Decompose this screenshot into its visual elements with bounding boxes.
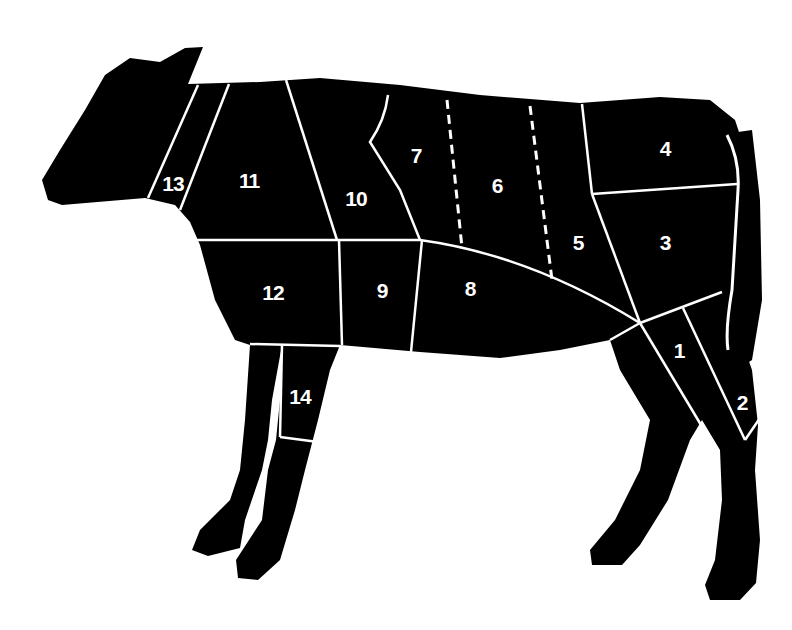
cut-label-2: 2 [737, 391, 748, 415]
cut-label-8: 8 [465, 277, 476, 301]
cut-label-9: 9 [377, 279, 388, 303]
cut-label-7: 7 [411, 144, 422, 168]
cut-label-6: 6 [492, 174, 503, 198]
cut-label-1: 1 [674, 339, 685, 363]
calf-silhouette [0, 0, 792, 630]
cut-label-12: 12 [262, 281, 283, 305]
cut-label-13: 13 [162, 172, 183, 196]
calf-body [42, 47, 760, 600]
cut-label-3: 3 [660, 231, 671, 255]
cut-label-14: 14 [289, 385, 310, 409]
cut-label-11: 11 [239, 169, 259, 193]
cut-label-10: 10 [345, 187, 366, 211]
cut-label-4: 4 [660, 137, 671, 161]
cut-label-5: 5 [573, 231, 584, 255]
